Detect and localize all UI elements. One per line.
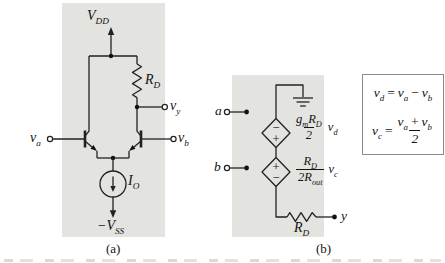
vb-sub: b [184, 138, 189, 148]
eq1-term1: va [398, 86, 408, 100]
rd-a-sub: D [154, 80, 161, 90]
caption-b: (b) [316, 242, 331, 255]
circuit-b [224, 85, 337, 221]
source2-numerator: RD [301, 155, 319, 168]
source2-bottom-wire [276, 187, 287, 218]
eq2-equals: = [385, 124, 393, 138]
eq1-term2: vb [422, 86, 432, 100]
terminal-b-icon [224, 165, 229, 170]
q1-emitter-wire [86, 142, 93, 147]
source1-fraction: gmRD 2 [294, 113, 324, 142]
eq1-lhs: vd [374, 86, 384, 100]
vss-sub: SS [115, 226, 124, 236]
vdd-base: V [87, 8, 96, 23]
vss-base: −V [97, 218, 115, 233]
vss-arrowhead-icon [110, 210, 116, 218]
terminal-a-label: a [215, 104, 222, 118]
terminal-y-label: y [341, 209, 347, 223]
source1-control-var: vd [328, 121, 338, 134]
equation-vd: vd = va − vb [363, 86, 443, 100]
source2-control-var: vc [328, 163, 337, 176]
rd-a-label: RD [145, 73, 160, 87]
cropped-caption-remnant [4, 259, 441, 262]
va-terminal-icon [47, 136, 52, 141]
eq2-lhs: vc [372, 124, 382, 138]
cs-arrowhead-icon [110, 186, 115, 192]
source2-fraction: RD 2Rout [296, 155, 324, 184]
rd2-base: R [303, 154, 311, 168]
eq1-lhs-sub: d [380, 93, 384, 103]
vy-label: vy [170, 99, 180, 113]
circuit-a [47, 27, 176, 218]
rd-a-base: R [145, 72, 154, 87]
figure-differential-pair: VDD va vb vy RD IO −VSS (a) a b y − + + … [0, 0, 445, 263]
vy-terminal-icon [162, 104, 167, 109]
equations-box: vd = va − vb vc = va+vb 2 [362, 74, 444, 155]
io-label: IO [128, 174, 139, 188]
rd-b-label: RD [294, 221, 309, 235]
eq2-plus: + [411, 114, 419, 129]
eq1-equals: = [387, 86, 395, 100]
terminal-b-dot [244, 166, 249, 171]
source1-denominator: 2 [304, 127, 314, 142]
eq1-t2-sub: b [428, 93, 432, 103]
eq2-fraction: va+vb 2 [396, 115, 435, 146]
eq2-numerator: va+vb [396, 115, 435, 129]
rd-b-sub: D [303, 228, 310, 238]
source1-gain-label: gmRD 2 vd [294, 113, 338, 142]
q2-emitter-wire [134, 142, 141, 147]
eq1-t1-sub: a [404, 93, 408, 103]
vdd-sub: DD [96, 16, 109, 26]
va-sub: a [36, 138, 41, 148]
vc-sub: c [334, 170, 338, 179]
terminal-a-icon [224, 109, 229, 114]
rout-sub: out [312, 178, 323, 187]
terminal-y-dot [332, 215, 337, 220]
io-sub: O [133, 181, 140, 191]
top-node-dot [109, 54, 113, 58]
output-node-dot [135, 105, 139, 109]
rd-sub: D [316, 120, 322, 129]
vd-sub: d [333, 128, 337, 137]
source1-numerator: gmRD [294, 113, 324, 126]
eq2-denominator: 2 [409, 130, 420, 146]
rd-base: R [308, 112, 316, 126]
vss-label: −VSS [97, 219, 124, 233]
rout-base: R [304, 170, 312, 184]
source2-denominator: 2Rout [296, 169, 324, 184]
ground-icon [293, 98, 313, 106]
resistor-rd-a-icon [133, 64, 142, 98]
terminal-a-dot [244, 110, 249, 115]
q1-drain-wire [86, 56, 89, 135]
eq2-lhs-sub: c [378, 131, 382, 141]
source2-minus-sign: − [272, 172, 279, 185]
va-label: va [30, 131, 41, 145]
source2-gain-label: RD 2Rout vc [296, 155, 338, 184]
vdd-label: VDD [87, 9, 109, 23]
vb-label: vb [178, 131, 189, 145]
caption-a: (a) [106, 242, 120, 255]
vy-sub: y [176, 106, 180, 116]
eq2-n2-sub: b [428, 122, 432, 132]
vdd-arrowhead-icon [108, 27, 114, 35]
vb-terminal-icon [171, 136, 176, 141]
equation-vc: vc = va+vb 2 [363, 115, 443, 146]
source1-plus-sign: + [272, 133, 279, 146]
rd-b-base: R [294, 220, 303, 235]
terminal-b-label: b [214, 160, 221, 174]
eq1-minus: − [411, 86, 419, 100]
eq2-n1-sub: a [404, 122, 408, 132]
